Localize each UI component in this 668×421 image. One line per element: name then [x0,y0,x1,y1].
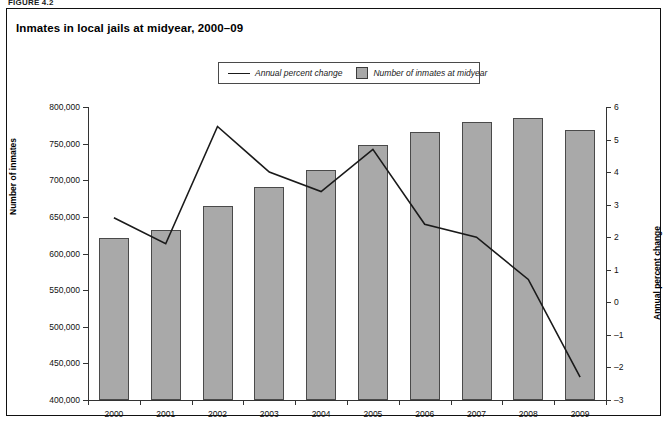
legend-entry-annual-percent-change: Annual percent change [228,68,342,78]
x-axis-tick-label: 2003 [260,409,279,419]
y-axis-left-tick-label: 500,000 [49,322,80,332]
y-axis-right-tick-label: –2 [614,362,623,372]
legend-entry-number-of-inmates: Number of inmates at midyear [356,67,487,79]
chart-title: Inmates in local jails at midyear, 2000–… [16,22,243,34]
y-axis-right-tick-label: 1 [614,265,619,275]
y-axis-right-tick-label: 5 [614,135,619,145]
y-axis-right-tick-label: 0 [614,297,619,307]
chart-legend: Annual percent change Number of inmates … [218,62,480,84]
y-axis-right-tick-label: –3 [614,395,623,405]
y-axis-right-tick [606,107,611,108]
y-axis-right-line [606,107,607,400]
x-axis-tick-label: 2009 [571,409,590,419]
x-axis-tick [347,400,348,405]
y-axis-left-tick-label: 550,000 [49,285,80,295]
y-axis-left-title: Number of inmates [8,138,18,215]
annual-percent-change-line [114,127,580,378]
line-series [88,107,606,400]
y-axis-left-tick-label: 450,000 [49,358,80,368]
x-axis-tick [451,400,452,405]
x-axis-tick-label: 2000 [104,409,123,419]
plot-area: 400,000450,000500,000550,000600,000650,0… [88,107,606,400]
legend-box-swatch-icon [356,67,368,79]
y-axis-left-tick-label: 800,000 [49,102,80,112]
legend-line-swatch-icon [228,73,250,74]
y-axis-right-tick [606,367,611,368]
x-axis-tick [554,400,555,405]
x-axis-tick-label: 2007 [467,409,486,419]
x-axis-tick [502,400,503,405]
x-axis-tick-label: 2006 [415,409,434,419]
y-axis-right-tick-label: 2 [614,232,619,242]
y-axis-left-tick-label: 700,000 [49,175,80,185]
legend-label-annual-percent-change: Annual percent change [255,68,342,78]
y-axis-right-tick-label: 4 [614,167,619,177]
y-axis-left-tick-label: 650,000 [49,212,80,222]
y-axis-left-tick-label: 600,000 [49,249,80,259]
y-axis-right-tick-label: –1 [614,330,623,340]
y-axis-right-tick [606,237,611,238]
x-axis-tick [243,400,244,405]
x-axis-tick-label: 2001 [156,409,175,419]
x-axis-tick [192,400,193,405]
y-axis-right-tick-label: 3 [614,200,619,210]
figure-label: FIGURE 4.2 [8,0,54,7]
x-axis-tick-label: 2002 [208,409,227,419]
y-axis-right-tick [606,205,611,206]
x-axis-tick-label: 2004 [312,409,331,419]
x-axis-tick [140,400,141,405]
y-axis-right-tick [606,172,611,173]
x-axis-tick-label: 2005 [363,409,382,419]
x-axis-tick [399,400,400,405]
y-axis-right-tick [606,140,611,141]
y-axis-left-tick-label: 400,000 [49,395,80,405]
y-axis-right-tick-label: 6 [614,102,619,112]
x-axis-tick [295,400,296,405]
y-axis-right-tick [606,302,611,303]
x-axis-tick-label: 2008 [519,409,538,419]
y-axis-right-tick [606,270,611,271]
x-axis-tick [88,400,89,405]
y-axis-left-tick-label: 750,000 [49,139,80,149]
y-axis-right-tick [606,335,611,336]
legend-label-number-of-inmates: Number of inmates at midyear [373,68,487,78]
y-axis-right-title: Annual percent change [652,226,662,320]
x-axis-tick [606,400,607,405]
